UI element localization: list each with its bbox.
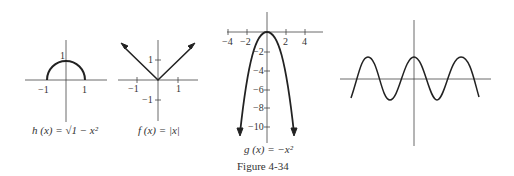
graph-g-parabola (227, 12, 323, 143)
g-y-tick-neg6: −6 (253, 85, 264, 95)
g-y-tick-neg10: −10 (248, 122, 264, 132)
graph-h-semicircle (25, 40, 107, 122)
h-x-tick-1: 1 (82, 85, 87, 95)
figure-caption: Figure 4-34 (237, 160, 289, 172)
g-x-tick-neg2: −2 (240, 37, 251, 47)
f-y-tick-neg1: −1 (142, 95, 153, 105)
g-y-tick-neg8: −8 (253, 103, 264, 113)
graph-f-abs (118, 40, 198, 121)
arrow-right-icon (188, 43, 195, 49)
f-y-tick-1: 1 (148, 55, 153, 65)
g-x-tick-neg4: −4 (222, 37, 233, 47)
arrow-left-icon (121, 43, 128, 49)
h-x-tick-neg1: −1 (38, 85, 49, 95)
wave-curve (351, 57, 479, 100)
g-caption: g (x) = −x² (244, 143, 293, 155)
g-x-tick-2: 2 (283, 37, 288, 47)
arrow-down-left-icon (237, 128, 243, 136)
h-caption: h (x) = √1 − x² (32, 124, 98, 136)
f-x-tick-neg1: −1 (128, 84, 139, 94)
graph-wave (340, 20, 491, 146)
f-x-tick-1: 1 (176, 84, 181, 94)
g-y-tick-neg4: −4 (253, 66, 264, 76)
g-x-tick-4: 4 (302, 37, 307, 47)
arrow-down-right-icon (291, 128, 297, 136)
h-y-tick-1: 1 (60, 51, 65, 61)
g-y-tick-neg2: −2 (253, 47, 264, 57)
f-caption: f (x) = |x| (138, 124, 180, 136)
